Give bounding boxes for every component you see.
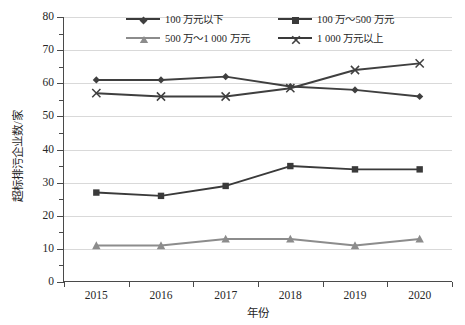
cross-marker-icon: [291, 35, 301, 47]
legend-item-0[interactable]: 100 万元以下: [126, 11, 278, 26]
datapoint-1-2: [222, 183, 228, 189]
datapoint-1-0: [93, 189, 99, 195]
datapoint-0-4: [351, 86, 358, 93]
legend: 100 万元以下 100 万～500 万元 500 万～1 000 万元: [126, 9, 426, 47]
datapoint-0-5: [416, 93, 423, 100]
diamond-marker-icon: [139, 16, 148, 27]
line-chart: 80 70 60 50 40 30 20 10 0 超标排污企业数/家 2015…: [0, 0, 465, 325]
legend-label-1: 100 万～500 万元: [317, 11, 394, 26]
legend-item-3[interactable]: 1 000 万元以上: [278, 30, 426, 45]
legend-swatch-diamond: [126, 13, 160, 25]
legend-item-2[interactable]: 500 万～1 000 万元: [126, 30, 278, 45]
datapoint-1-4: [352, 166, 358, 172]
datapoint-1-3: [287, 163, 293, 169]
datapoint-0-2: [222, 73, 229, 80]
legend-swatch-cross: [278, 32, 312, 44]
legend-swatch-square: [278, 13, 312, 25]
triangle-marker-icon: [139, 35, 149, 46]
series-2: [92, 235, 424, 249]
series-1: [93, 163, 423, 199]
datapoint-1-1: [158, 193, 164, 199]
datapoint-0-0: [93, 76, 100, 83]
legend-swatch-triangle: [126, 32, 160, 44]
legend-label-0: 100 万元以下: [165, 11, 223, 26]
datapoint-1-5: [416, 166, 422, 172]
legend-label-3: 1 000 万元以上: [317, 30, 383, 45]
series-layer: [0, 0, 465, 325]
legend-label-2: 500 万～1 000 万元: [165, 30, 250, 45]
square-marker-icon: [291, 16, 300, 27]
legend-item-1[interactable]: 100 万～500 万元: [278, 11, 426, 26]
datapoint-0-1: [157, 76, 164, 83]
